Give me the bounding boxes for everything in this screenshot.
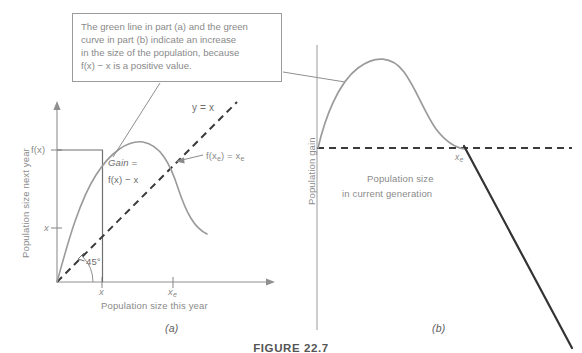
panel-a-label: (a) (165, 322, 178, 335)
panel-b-inner-label-line1: Population size (367, 173, 434, 185)
panel-b-x-tick-label-xe: xe (455, 152, 463, 164)
panel-a-gain-label-line1: Gain = (108, 157, 137, 169)
panel-a-y-axis-title: Population size next year (20, 148, 32, 258)
panel-a-identity-line-label: y = x (192, 102, 214, 115)
panel-b-y-axis-title: Population gain (306, 137, 318, 205)
callout-box: The green line in part (a) and the green… (72, 13, 282, 82)
panel-a-x-tick-xe-sub: e (173, 291, 177, 298)
panel-a-x-tick-label-x: x (99, 286, 104, 298)
panel-a-equilibrium-base: f(x (206, 150, 217, 161)
panel-b-gain-line-negative (464, 146, 572, 348)
figure-container: The green line in part (a) and the green… (0, 0, 582, 353)
panel-b-x-tick-xe-sub: e (459, 156, 463, 163)
panel-a-angle-label: 45° (86, 256, 101, 268)
panel-a-gain-label-line2: f(x) − x (108, 174, 139, 186)
panel-a-equilibrium-label: f(xe) = xe (206, 150, 244, 163)
panel-a-identity-line (57, 102, 237, 282)
panel-a-equilibrium-sub-2: e (240, 155, 244, 162)
panel-b-label: (b) (432, 322, 445, 335)
panel-b-inner-label-line2: in current generation (342, 188, 432, 200)
panel-a-y-tick-label-fx: f(x) (31, 144, 45, 156)
panel-a-x-axis (57, 278, 275, 285)
figure-caption: FIGURE 22.7 (0, 342, 582, 353)
panel-b-graphics (317, 59, 572, 348)
panel-a-equilibrium-mid: ) = x (221, 150, 241, 161)
callout-text: The green line in part (a) and the green… (81, 20, 274, 72)
panel-a-x-tick-label-xe: xe (168, 286, 177, 299)
panel-a-y-tick-label-x: x (44, 222, 49, 234)
panel-b-gain-curve-positive (318, 59, 465, 149)
panel-a-x-axis-title: Population size this year (101, 300, 208, 312)
panel-a-y-axis (53, 101, 60, 282)
callout-leader-b (283, 72, 345, 82)
panel-a-graphics (51, 101, 275, 288)
